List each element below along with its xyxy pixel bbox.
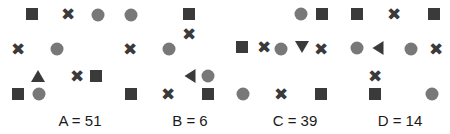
group-label-a: A = 51 bbox=[59, 112, 102, 129]
group-label-d: D = 14 bbox=[378, 112, 423, 129]
dark-triangle-up-icon bbox=[31, 70, 45, 82]
gray-circle-icon bbox=[295, 8, 308, 21]
dark-x-cross-icon: ✖ bbox=[368, 69, 382, 83]
gray-circle-icon bbox=[51, 43, 64, 56]
dark-square-icon bbox=[202, 88, 214, 100]
dark-x-cross-icon: ✖ bbox=[11, 42, 25, 56]
dark-triangle-left-icon bbox=[185, 69, 196, 83]
dark-square-icon bbox=[351, 8, 363, 20]
dark-square-icon bbox=[26, 8, 38, 20]
gray-circle-icon bbox=[202, 70, 215, 83]
dark-x-cross-icon: ✖ bbox=[274, 87, 288, 101]
dark-x-cross-icon: ✖ bbox=[123, 42, 137, 56]
gray-circle-icon bbox=[351, 42, 364, 55]
dark-triangle-left-icon bbox=[373, 41, 384, 55]
gray-circle-icon bbox=[125, 9, 138, 22]
gray-circle-icon bbox=[426, 88, 439, 101]
dark-x-cross-icon: ✖ bbox=[161, 87, 175, 101]
dark-x-cross-icon: ✖ bbox=[314, 42, 328, 56]
gray-circle-icon bbox=[275, 43, 288, 56]
gray-circle-icon bbox=[92, 9, 105, 22]
dark-x-cross-icon: ✖ bbox=[257, 40, 271, 54]
group-label-c: C = 39 bbox=[273, 112, 318, 129]
dark-square-icon bbox=[90, 70, 102, 82]
dark-x-cross-icon: ✖ bbox=[70, 69, 84, 83]
gray-circle-icon bbox=[163, 43, 176, 56]
dark-square-icon bbox=[183, 8, 195, 20]
dark-square-icon bbox=[316, 8, 328, 20]
gray-circle-icon bbox=[33, 88, 46, 101]
dark-square-icon bbox=[125, 88, 137, 100]
gray-circle-icon bbox=[405, 43, 418, 56]
dark-x-cross-icon: ✖ bbox=[61, 7, 75, 21]
dark-triangle-down-icon bbox=[295, 41, 309, 53]
group-label-b: B = 6 bbox=[172, 112, 207, 129]
dark-x-cross-icon: ✖ bbox=[429, 42, 443, 56]
dark-square-icon bbox=[428, 8, 440, 20]
dark-square-icon bbox=[12, 88, 24, 100]
dark-x-cross-icon: ✖ bbox=[387, 7, 401, 21]
dark-x-cross-icon: ✖ bbox=[182, 27, 196, 41]
dark-square-icon bbox=[315, 88, 327, 100]
shape-puzzle-canvas: ✖✖✖✖✖✖✖✖✖✖✖✖A = 51B = 6C = 39D = 14 bbox=[0, 0, 450, 134]
dark-square-icon bbox=[369, 88, 381, 100]
gray-circle-icon bbox=[237, 88, 250, 101]
dark-square-icon bbox=[236, 41, 248, 53]
